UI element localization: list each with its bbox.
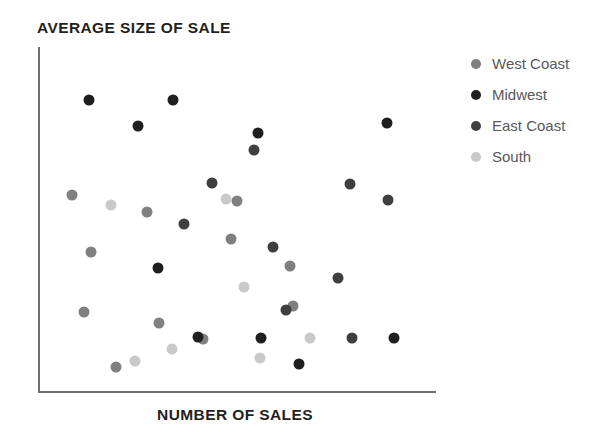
data-point	[382, 194, 393, 205]
data-point	[294, 358, 305, 369]
scatter-chart: AVERAGE SIZE OF SALE NUMBER OF SALES Wes…	[0, 0, 606, 432]
legend-item-label: South	[492, 148, 531, 165]
data-point	[347, 332, 358, 343]
data-point	[345, 179, 356, 190]
data-point	[220, 193, 231, 204]
data-point	[206, 177, 217, 188]
legend-item-label: East Coast	[492, 117, 565, 134]
legend-item-midwest[interactable]: Midwest	[471, 79, 601, 110]
page-title: AVERAGE SIZE OF SALE	[37, 19, 231, 37]
data-point	[192, 331, 203, 342]
plot-area	[38, 47, 436, 393]
data-point	[153, 318, 164, 329]
data-point	[142, 207, 153, 218]
data-point	[255, 332, 266, 343]
data-point	[388, 332, 399, 343]
data-point	[253, 128, 264, 139]
data-point	[79, 307, 90, 318]
data-point	[167, 94, 178, 105]
data-point	[280, 304, 291, 315]
legend: West CoastMidwestEast CoastSouth	[471, 48, 601, 172]
legend-swatch-icon	[471, 90, 481, 100]
data-point	[179, 219, 190, 230]
data-point	[66, 190, 77, 201]
data-point	[105, 200, 116, 211]
data-point	[304, 332, 315, 343]
data-point	[255, 353, 266, 364]
data-point	[284, 261, 295, 272]
data-point	[382, 118, 393, 129]
x-axis-label: NUMBER OF SALES	[0, 406, 470, 424]
data-point	[232, 195, 243, 206]
legend-item-east-coast[interactable]: East Coast	[471, 110, 601, 141]
data-point	[167, 344, 178, 355]
data-point	[268, 241, 279, 252]
data-point	[132, 120, 143, 131]
data-point	[153, 263, 164, 274]
data-point	[333, 273, 344, 284]
legend-item-west-coast[interactable]: West Coast	[471, 48, 601, 79]
data-point	[249, 145, 260, 156]
legend-swatch-icon	[471, 59, 481, 69]
data-point	[226, 234, 237, 245]
legend-swatch-icon	[471, 152, 481, 162]
legend-swatch-icon	[471, 121, 481, 131]
legend-item-south[interactable]: South	[471, 141, 601, 172]
data-point	[83, 94, 94, 105]
legend-item-label: West Coast	[492, 55, 569, 72]
legend-item-label: Midwest	[492, 86, 547, 103]
data-point	[130, 356, 141, 367]
data-point	[85, 246, 96, 257]
data-point	[111, 362, 122, 373]
data-point	[239, 282, 250, 293]
